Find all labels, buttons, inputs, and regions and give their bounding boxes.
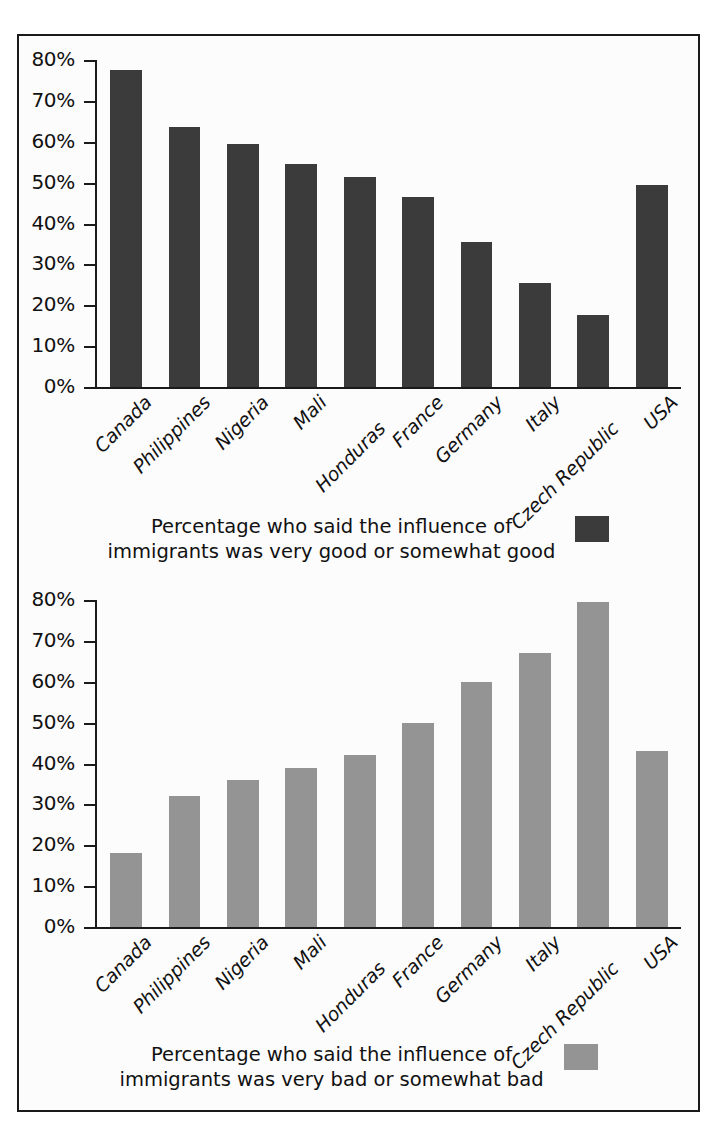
bar-slot — [623, 60, 681, 387]
y-tick-label-bad-70: 70% — [31, 627, 75, 651]
bar-bad-philippines[interactable] — [169, 796, 201, 927]
bar-slot — [389, 600, 447, 927]
bar-slot — [506, 600, 564, 927]
x-label-good-nigeria: Nigeria — [210, 391, 273, 454]
bar-good-mali[interactable] — [285, 164, 317, 387]
x-label-bad-italy: Italy — [521, 931, 565, 975]
legend-bad: Percentage who said the influence of imm… — [19, 1042, 698, 1092]
bar-good-germany[interactable] — [461, 242, 493, 387]
y-tick-label-good-60: 60% — [31, 128, 75, 152]
legend-swatch-bad — [564, 1044, 598, 1070]
bar-bad-honduras[interactable] — [344, 755, 376, 927]
plot-area-bad: 0%10%20%30%40%50%60%70%80% — [95, 600, 681, 927]
bar-good-canada[interactable] — [110, 70, 142, 387]
bar-good-philippines[interactable] — [169, 127, 201, 387]
legend-good-line2: immigrants was very good or somewhat goo… — [108, 540, 556, 563]
bar-slot — [97, 60, 155, 387]
y-tick-good-60: 60% — [84, 142, 95, 144]
x-label-bad-usa: USA — [639, 931, 682, 974]
legend-good-line1: Percentage who said the influence of — [151, 515, 512, 538]
bar-slot — [447, 600, 505, 927]
y-tick-bad-40: 40% — [84, 764, 95, 766]
bar-slot — [506, 60, 564, 387]
chart-good-influence: 0%10%20%30%40%50%60%70%80% CanadaPhilipp… — [19, 36, 698, 576]
x-axis-category-labels-good: CanadaPhilippinesNigeriaMaliHondurasFran… — [97, 391, 683, 516]
bar-good-usa[interactable] — [636, 185, 668, 387]
chart-bad-influence: 0%10%20%30%40%50%60%70%80% CanadaPhilipp… — [19, 576, 698, 1110]
x-axis-category-labels-bad: CanadaPhilippinesNigeriaMaliHondurasFran… — [97, 931, 683, 1056]
bar-slot — [623, 600, 681, 927]
y-tick-bad-80: 80% — [84, 600, 95, 602]
bar-bad-mali[interactable] — [285, 768, 317, 927]
x-label-good-usa: USA — [639, 391, 682, 434]
bar-bad-canada[interactable] — [110, 853, 142, 927]
bar-slot — [97, 600, 155, 927]
bar-good-czech-republic[interactable] — [577, 315, 609, 387]
x-axis-line-bad — [95, 927, 681, 929]
y-tick-bad-0: 0% — [84, 927, 95, 929]
bar-slot — [214, 60, 272, 387]
y-tick-label-good-0: 0% — [44, 374, 75, 398]
plot-area-good: 0%10%20%30%40%50%60%70%80% — [95, 60, 681, 387]
y-tick-label-good-10: 10% — [31, 333, 75, 357]
bar-slot — [447, 60, 505, 387]
y-tick-label-good-70: 70% — [31, 87, 75, 111]
x-label-good-italy: Italy — [521, 391, 565, 435]
y-tick-good-30: 30% — [84, 264, 95, 266]
y-tick-label-good-40: 40% — [31, 210, 75, 234]
bar-slot — [331, 600, 389, 927]
y-tick-label-bad-40: 40% — [31, 750, 75, 774]
bar-series-bad — [97, 600, 681, 927]
y-tick-good-40: 40% — [84, 224, 95, 226]
bar-bad-czech-republic[interactable] — [577, 602, 609, 927]
bar-series-good — [97, 60, 681, 387]
bar-slot — [214, 600, 272, 927]
y-tick-label-bad-0: 0% — [44, 914, 75, 938]
x-label-bad-mali: Mali — [289, 931, 331, 973]
y-tick-label-bad-10: 10% — [31, 873, 75, 897]
y-tick-bad-10: 10% — [84, 886, 95, 888]
y-tick-bad-50: 50% — [84, 723, 95, 725]
y-tick-label-bad-20: 20% — [31, 832, 75, 856]
x-label-bad-honduras: Honduras — [310, 957, 389, 1036]
y-tick-label-good-30: 30% — [31, 251, 75, 275]
figure-frame: 0%10%20%30%40%50%60%70%80% CanadaPhilipp… — [17, 34, 700, 1112]
y-tick-good-10: 10% — [84, 346, 95, 348]
legend-bad-line2: immigrants was very bad or somewhat bad — [119, 1068, 543, 1091]
y-tick-good-0: 0% — [84, 387, 95, 389]
bar-slot — [155, 600, 213, 927]
y-tick-label-good-50: 50% — [31, 169, 75, 193]
x-label-bad-nigeria: Nigeria — [210, 931, 273, 994]
y-tick-label-bad-30: 30% — [31, 791, 75, 815]
x-axis-line-good — [95, 387, 681, 389]
y-tick-label-bad-50: 50% — [31, 709, 75, 733]
bar-good-honduras[interactable] — [344, 177, 376, 388]
bar-slot — [272, 600, 330, 927]
bar-bad-italy[interactable] — [519, 653, 551, 927]
y-tick-bad-70: 70% — [84, 641, 95, 643]
bar-good-nigeria[interactable] — [227, 144, 259, 387]
bar-good-france[interactable] — [402, 197, 434, 387]
y-tick-bad-60: 60% — [84, 682, 95, 684]
bar-slot — [155, 60, 213, 387]
y-tick-good-50: 50% — [84, 183, 95, 185]
x-label-good-honduras: Honduras — [310, 417, 389, 496]
bar-slot — [389, 60, 447, 387]
y-tick-bad-20: 20% — [84, 845, 95, 847]
bar-bad-usa[interactable] — [636, 751, 668, 927]
y-tick-bad-30: 30% — [84, 804, 95, 806]
y-tick-label-good-20: 20% — [31, 292, 75, 316]
legend-good: Percentage who said the influence of imm… — [19, 514, 698, 564]
y-tick-good-20: 20% — [84, 305, 95, 307]
y-tick-label-bad-60: 60% — [31, 668, 75, 692]
y-tick-good-80: 80% — [84, 60, 95, 62]
bar-good-italy[interactable] — [519, 283, 551, 387]
bar-slot — [564, 60, 622, 387]
x-label-good-mali: Mali — [289, 391, 331, 433]
bar-slot — [564, 600, 622, 927]
bar-bad-nigeria[interactable] — [227, 780, 259, 927]
bar-bad-france[interactable] — [402, 723, 434, 927]
bar-bad-germany[interactable] — [461, 682, 493, 927]
y-tick-label-bad-80: 80% — [31, 587, 75, 611]
bar-slot — [331, 60, 389, 387]
